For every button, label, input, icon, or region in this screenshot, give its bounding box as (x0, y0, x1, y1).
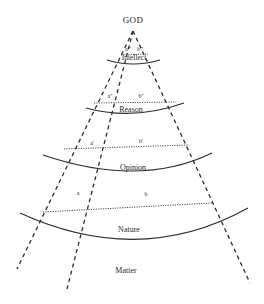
opinion-a-label: a' (90, 140, 94, 146)
level-opinion: a' b' Opinion (43, 138, 212, 172)
level-intellect: a''' b''' Intellect (107, 46, 160, 64)
nature-divider (43, 203, 212, 212)
god-label: GOD (123, 15, 144, 25)
opinion-divider (64, 145, 188, 149)
nature-arc (20, 208, 248, 239)
nature-b-label: b (145, 191, 148, 197)
dashed-rays (17, 31, 250, 289)
opinion-b-label: b' (139, 138, 143, 144)
opinion-label: Opinion (120, 163, 146, 172)
outer-left-ray (17, 31, 133, 269)
inner-left-ray (67, 31, 133, 289)
reason-b-label: b'' (138, 93, 143, 99)
reason-a-label: a'' (108, 93, 113, 99)
level-nature: a b Nature (20, 190, 248, 239)
reason-label: Reason (119, 105, 143, 114)
nature-a-label: a (77, 190, 80, 196)
level-reason: a'' b'' Reason (86, 93, 184, 114)
reason-divider (94, 102, 176, 103)
intellect-a-label: a''' (125, 46, 131, 52)
intellect-b-label: b''' (137, 46, 143, 52)
matter-label: Matter (115, 266, 137, 275)
right-ray (133, 31, 250, 283)
intellect-label: Intellect (122, 53, 147, 62)
cosmic-hierarchy-diagram: GOD a''' b''' Intellect a'' b'' Reason a… (0, 0, 264, 304)
nature-label: Nature (118, 225, 140, 234)
